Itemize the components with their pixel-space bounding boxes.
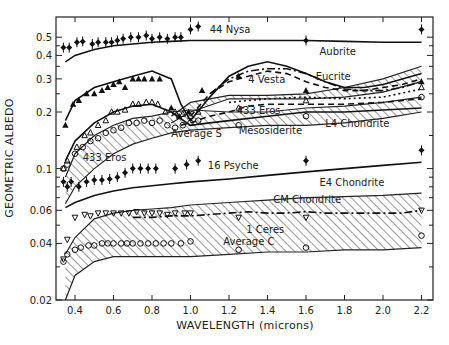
annotation-433-eros: 433 Eros: [83, 152, 127, 163]
y-tick-label: 0.1: [36, 164, 52, 175]
x-tick-label: 1.6: [298, 305, 314, 316]
annotation-cm-chondrite: CM Chondrite: [273, 194, 341, 205]
annotation-4-vesta: 4 Vesta: [248, 74, 285, 85]
annotation-aubrite: Aubrite: [319, 46, 356, 57]
curve-aubrite: [65, 41, 421, 62]
x-axis-title: WAVELENGTH (microns): [176, 319, 314, 332]
x-tick-label: 1.8: [337, 305, 353, 316]
y-tick-label: 0.3: [36, 74, 52, 85]
x-tick-label: 0.8: [144, 305, 160, 316]
x-tick-label: 2.2: [414, 305, 430, 316]
x-tick-label: 1.2: [221, 305, 237, 316]
y-tick-label: 0.02: [30, 295, 52, 306]
y-tick-label: 0.04: [30, 238, 52, 249]
x-tick-label: 1.4: [260, 305, 276, 316]
y-tick-label: 0.2: [36, 107, 52, 118]
annotation-mesosiderite: Mesosiderite: [239, 125, 303, 136]
y-axis-title: GEOMETRIC ALBEDO: [3, 98, 16, 217]
annotation-average-c: Average C: [223, 236, 274, 247]
annotation-433-eros: 433 Eros: [237, 105, 281, 116]
annotation-e4-chondrite: E4 Chondrite: [319, 177, 384, 188]
annotation-44-nysa: 44 Nysa: [210, 24, 251, 35]
x-tick-label: 1.0: [183, 305, 199, 316]
y-tick-label: 0.06: [30, 205, 52, 216]
reflectance-chart: 0.40.60.81.01.21.41.61.82.02.20.020.040.…: [0, 0, 449, 345]
annotation-16-psyche: 16 Psyche: [208, 160, 259, 171]
annotation-1-ceres: 1 Ceres: [246, 224, 284, 235]
x-tick-label: 2.0: [375, 305, 391, 316]
y-tick-label: 0.5: [36, 32, 52, 43]
y-tick-label: 0.4: [36, 50, 52, 61]
x-tick-label: 0.6: [106, 305, 122, 316]
annotation-eucrite: Eucrite: [316, 71, 351, 82]
annotation-l4-chondrite: L4 Chondrite: [325, 118, 389, 129]
annotation-average-s: Average S: [171, 128, 222, 139]
x-tick-label: 0.4: [67, 305, 83, 316]
